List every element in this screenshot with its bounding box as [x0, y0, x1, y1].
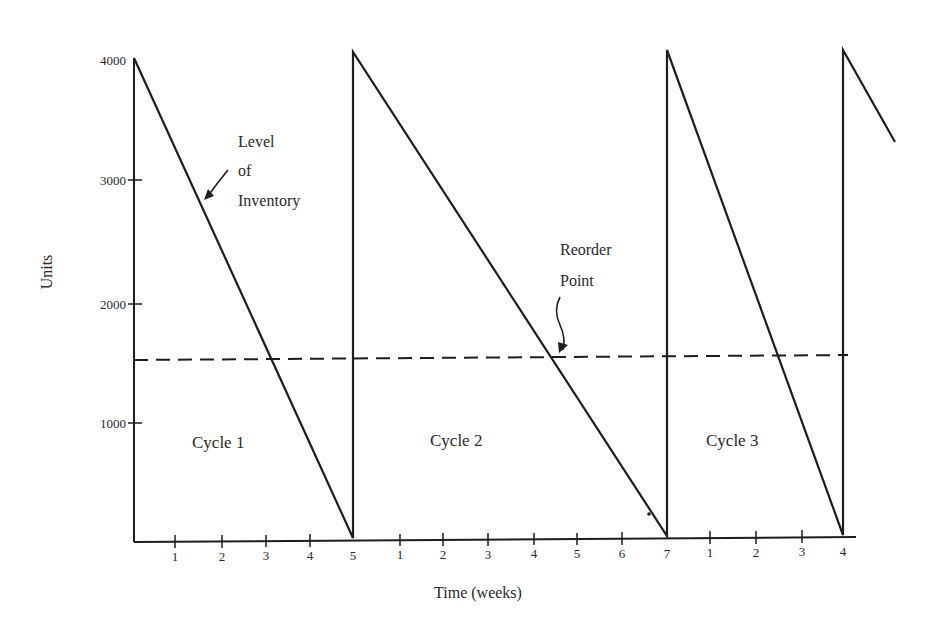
x-tick-label: 4 [307, 548, 314, 563]
x-tick-label: 5 [574, 546, 581, 561]
x-axis [134, 537, 856, 542]
inventory-level-line [134, 50, 895, 538]
annotation-inventory: Inventory [238, 192, 300, 210]
print-artifact-dot [647, 512, 651, 516]
annotation-reorder: Reorder [560, 241, 612, 258]
x-tick-labels-cycle-1: 1 2 3 4 5 [172, 548, 357, 564]
x-tick-label: 3 [799, 544, 806, 559]
x-tick-labels-cycle-3: 1 2 3 4 [707, 544, 847, 560]
x-tick-label: 6 [619, 546, 626, 561]
x-tick-labels-cycle-2: 1 2 3 4 5 6 7 [397, 546, 671, 562]
y-axis-title: Units [38, 255, 55, 290]
y-tick-labels: 4000 3000 2000 1000 [100, 53, 126, 431]
reorder-point-annotation: Reorder Point [557, 241, 613, 353]
y-tick-2000: 2000 [100, 297, 126, 312]
y-tick-1000: 1000 [100, 416, 126, 431]
cycle-3-label: Cycle 3 [706, 431, 758, 450]
level-of-inventory-annotation: Level of Inventory [204, 133, 300, 210]
x-tick-label: 3 [485, 547, 492, 562]
x-axis-title: Time (weeks) [434, 584, 522, 602]
y-tick-3000: 3000 [100, 173, 126, 188]
x-tick-label: 1 [707, 545, 714, 560]
annotation-level: Level [238, 133, 275, 150]
arrow-head-icon [558, 342, 568, 353]
arrow-icon [557, 297, 565, 350]
x-tick-label: 3 [263, 548, 270, 563]
annotation-of: of [238, 162, 252, 179]
y-tick-4000: 4000 [100, 53, 126, 68]
x-tick-label: 5 [350, 548, 357, 563]
x-tick-label: 4 [840, 544, 847, 559]
cycle-2-label: Cycle 2 [430, 431, 482, 450]
reorder-point-line [134, 355, 848, 360]
x-tick-label: 1 [397, 547, 404, 562]
x-tick-label: 2 [753, 545, 760, 560]
axes [134, 58, 856, 542]
x-tick-label: 1 [172, 549, 179, 564]
x-tick-label: 2 [440, 547, 447, 562]
x-tick-label: 4 [531, 546, 538, 561]
x-tick-label: 7 [664, 546, 671, 561]
x-tick-label: 2 [219, 549, 226, 564]
arrow-icon [208, 170, 228, 196]
inventory-sawtooth-chart: 4000 3000 2000 1000 1 2 3 4 5 1 2 3 4 5 … [0, 0, 935, 638]
cycle-1-label: Cycle 1 [192, 433, 244, 452]
annotation-point: Point [560, 272, 594, 289]
